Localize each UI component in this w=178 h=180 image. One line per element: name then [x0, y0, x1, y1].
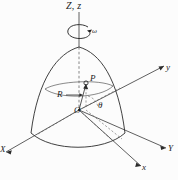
angular-velocity-label: ω [92, 28, 97, 35]
angular-velocity-arrow-group [68, 25, 92, 39]
sphere-bottom-arc [31, 133, 125, 147]
axis-label-X-inertial: X [0, 145, 6, 154]
sphere-outline-group [31, 47, 125, 147]
latitude-circle-group [45, 82, 113, 96]
origin-label-O: O [74, 106, 81, 115]
point-label-P: P [90, 74, 96, 83]
radius-label-R: R [57, 90, 63, 99]
figure-container: Z, z ω P R O θ y Y x X [0, 0, 178, 180]
sphere-meridian-left [31, 47, 79, 133]
angle-label-theta: θ [98, 101, 102, 110]
axis-label-Y-inertial: Y [168, 144, 173, 153]
axis-label-y-body: y [166, 63, 170, 72]
axis-label-Zz: Z, z [66, 1, 81, 11]
axis-X-arrowhead [6, 150, 12, 154]
angle-theta-group [88, 96, 98, 107]
theta-arc [88, 96, 98, 107]
axis-x-hidden-dashed-2 [86, 110, 122, 139]
diagram-canvas [0, 0, 178, 180]
axis-label-x-body: x [142, 163, 146, 172]
